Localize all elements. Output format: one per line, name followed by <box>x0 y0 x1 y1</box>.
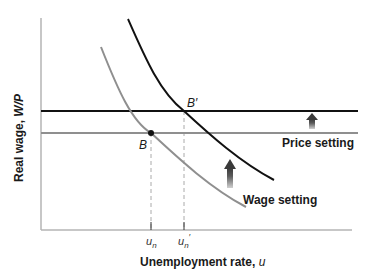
price-shift-up-arrow-icon <box>306 113 318 129</box>
wage-setting-curve-new <box>128 19 274 180</box>
y-axis-title: Real wage, W/P <box>12 93 26 182</box>
price-setting-label: Price setting <box>282 136 354 150</box>
wage-price-setting-diagram: B B′ Price setting Wage setting un un′ U… <box>0 0 375 274</box>
point-b-marker <box>148 130 154 136</box>
tick-label-un: un <box>146 235 157 250</box>
wage-setting-curve-original <box>101 47 246 207</box>
tick-label-un-prime: un′ <box>178 232 191 250</box>
wage-setting-label: Wage setting <box>243 193 317 207</box>
wage-shift-up-arrow-icon <box>224 159 236 188</box>
point-b-label: B <box>139 138 147 152</box>
x-axis-title: Unemployment rate, u <box>140 255 266 269</box>
point-b-prime-label: B′ <box>187 96 198 110</box>
